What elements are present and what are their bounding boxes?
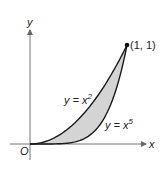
point-1-1: [125, 43, 130, 48]
curve-x-fifth-label: y = x5: [104, 117, 134, 131]
origin-label: O: [20, 145, 29, 157]
region-diagram: y x O (1, 1) y = x2 y = x5: [0, 0, 164, 172]
y-axis-label: y: [26, 16, 34, 28]
curve-x-squared-label: y = x2: [63, 92, 93, 106]
x-axis-label: x: [148, 138, 155, 150]
point-label: (1, 1): [130, 39, 156, 51]
